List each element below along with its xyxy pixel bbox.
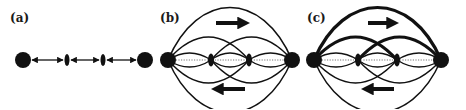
scatterer-node	[101, 54, 106, 66]
panel-c-lens-network-thick	[306, 8, 449, 110]
terminal-node-left	[160, 52, 176, 68]
path-arc-large-upper	[314, 8, 441, 61]
panel-label-a: (a)	[10, 11, 29, 25]
scatterer-node	[246, 54, 252, 67]
scatterer-node	[355, 54, 361, 67]
scatterer-node	[394, 54, 400, 67]
terminal-node	[15, 52, 31, 68]
scatterer-node	[208, 54, 214, 67]
panel-a-chain-diagram	[15, 52, 153, 68]
panel-label-b: (b)	[160, 11, 180, 25]
scatterer-node	[65, 54, 70, 66]
panel-label-c: (c)	[307, 11, 326, 25]
terminal-node	[137, 52, 153, 68]
panel-b-lens-network	[160, 8, 300, 110]
path-arc-large-upper	[168, 8, 292, 61]
figure-canvas: (a) (b) (c)	[0, 0, 466, 109]
terminal-node-left	[306, 52, 322, 68]
terminal-node-right	[284, 52, 300, 68]
terminal-node-right	[433, 52, 449, 68]
